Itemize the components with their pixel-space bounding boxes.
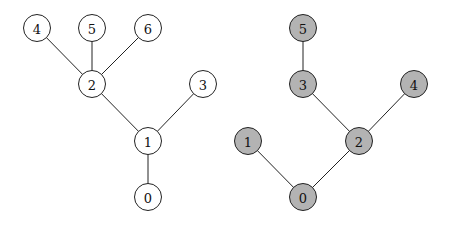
node-label: 4 bbox=[410, 78, 418, 93]
node-label: 5 bbox=[88, 22, 96, 37]
node-3: 3 bbox=[290, 71, 317, 98]
node-label: 5 bbox=[299, 22, 307, 37]
tree-right: 534120 bbox=[235, 15, 428, 211]
tree-left: 4562310 bbox=[24, 15, 217, 211]
node-4: 4 bbox=[24, 15, 51, 42]
node-label: 4 bbox=[33, 22, 41, 37]
node-label: 3 bbox=[199, 78, 207, 93]
node-label: 2 bbox=[355, 135, 363, 150]
node-5: 5 bbox=[290, 15, 317, 42]
node-2: 2 bbox=[79, 71, 106, 98]
node-6: 6 bbox=[135, 15, 162, 42]
node-label: 3 bbox=[299, 78, 307, 93]
node-label: 1 bbox=[244, 135, 252, 150]
node-3: 3 bbox=[190, 71, 217, 98]
node-2: 2 bbox=[346, 128, 373, 155]
node-label: 2 bbox=[88, 78, 96, 93]
node-0: 0 bbox=[135, 184, 162, 211]
tree-diagram: 4562310534120 bbox=[0, 0, 451, 230]
node-label: 0 bbox=[144, 191, 152, 206]
node-0: 0 bbox=[290, 184, 317, 211]
node-1: 1 bbox=[235, 128, 262, 155]
node-5: 5 bbox=[79, 15, 106, 42]
node-label: 6 bbox=[144, 22, 152, 37]
node-label: 0 bbox=[299, 191, 307, 206]
node-1: 1 bbox=[135, 128, 162, 155]
node-label: 1 bbox=[144, 135, 152, 150]
node-4: 4 bbox=[401, 71, 428, 98]
